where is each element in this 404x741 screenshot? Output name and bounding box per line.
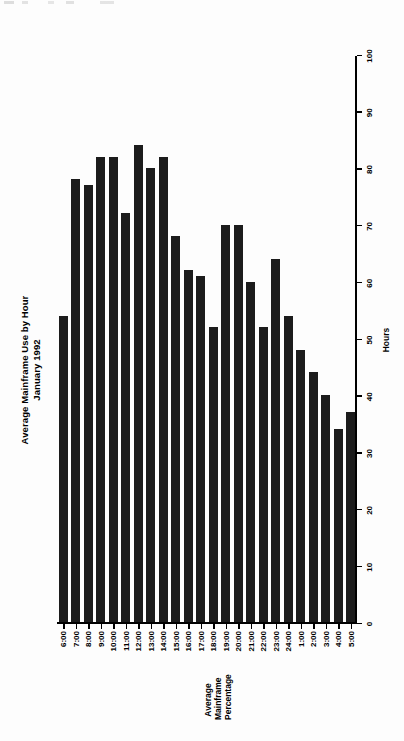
category-tick-label: 18:00 xyxy=(209,631,218,651)
category-tick xyxy=(276,624,277,629)
category-tick-label: 2:00 xyxy=(309,631,318,647)
bar xyxy=(209,327,218,622)
rotated-figure-wrapper: Average Mainframe Use by Hour January 19… xyxy=(13,20,391,720)
chart-title: Average Mainframe Use by Hour January 19… xyxy=(19,20,43,720)
category-tick-label: 24:00 xyxy=(284,631,293,651)
bar xyxy=(121,213,130,622)
category-tick xyxy=(313,624,314,629)
value-tick xyxy=(357,509,362,510)
bar xyxy=(346,412,355,622)
category-tick-label: 20:00 xyxy=(234,631,243,651)
category-tick-label: 7:00 xyxy=(71,631,80,647)
bar-chart-figure: Average Mainframe Use by Hour January 19… xyxy=(13,20,391,720)
value-tick xyxy=(357,111,362,112)
category-tick-label: 23:00 xyxy=(271,631,280,651)
category-tick xyxy=(126,624,127,629)
category-tick-label: 9:00 xyxy=(96,631,105,647)
value-tick-label: 100 xyxy=(365,49,374,62)
category-axis-title: Hours xyxy=(381,56,391,624)
value-tick xyxy=(357,623,362,624)
category-tick xyxy=(176,624,177,629)
category-tick xyxy=(151,624,152,629)
category-tick-label: 22:00 xyxy=(259,631,268,651)
bar xyxy=(71,179,80,622)
bar xyxy=(246,282,255,623)
category-tick xyxy=(338,624,339,629)
category-tick-label: 1:00 xyxy=(296,631,305,647)
bar xyxy=(284,316,293,623)
category-tick xyxy=(101,624,102,629)
category-tick-label: 14:00 xyxy=(159,631,168,651)
category-tick xyxy=(113,624,114,629)
plot-area: 6:007:008:009:0010:0011:0012:0013:0014:0… xyxy=(57,56,357,624)
scan-artifact xyxy=(4,1,144,4)
bar xyxy=(259,327,268,622)
bar xyxy=(234,225,243,623)
category-tick-label: 17:00 xyxy=(196,631,205,651)
value-tick-label: 90 xyxy=(365,108,374,117)
bar xyxy=(84,185,93,622)
value-tick-label: 30 xyxy=(365,449,374,458)
category-tick xyxy=(263,624,264,629)
bar xyxy=(184,270,193,622)
value-axis-title: Average Mainframe Percentage xyxy=(203,680,233,720)
category-tick xyxy=(226,624,227,629)
category-tick-label: 4:00 xyxy=(334,631,343,647)
category-tick xyxy=(163,624,164,629)
bar xyxy=(134,145,143,622)
bar xyxy=(321,395,330,622)
value-tick xyxy=(357,395,362,396)
value-tick-label: 60 xyxy=(365,279,374,288)
category-tick-label: 19:00 xyxy=(221,631,230,651)
category-tick-label: 3:00 xyxy=(321,631,330,647)
category-tick xyxy=(88,624,89,629)
chart-title-line-1: Average Mainframe Use by Hour xyxy=(19,20,31,720)
bar xyxy=(171,236,180,622)
bar xyxy=(109,157,118,623)
category-tick xyxy=(201,624,202,629)
category-tick xyxy=(238,624,239,629)
bar xyxy=(59,316,68,623)
category-tick-label: 15:00 xyxy=(171,631,180,651)
category-tick xyxy=(188,624,189,629)
value-tick-label: 80 xyxy=(365,165,374,174)
bar xyxy=(334,429,343,622)
chart-title-line-2: January 1992 xyxy=(31,20,43,720)
category-tick-label: 12:00 xyxy=(134,631,143,651)
category-tick xyxy=(76,624,77,629)
category-tick-label: 11:00 xyxy=(121,631,130,651)
category-tick xyxy=(288,624,289,629)
value-tick xyxy=(357,225,362,226)
value-tick xyxy=(357,282,362,283)
bar xyxy=(271,259,280,623)
category-tick xyxy=(301,624,302,629)
category-tick-label: 21:00 xyxy=(246,631,255,651)
value-tick xyxy=(357,55,362,56)
category-tick-label: 13:00 xyxy=(146,631,155,651)
category-tick-label: 16:00 xyxy=(184,631,193,651)
value-tick xyxy=(357,168,362,169)
category-tick xyxy=(251,624,252,629)
bar xyxy=(296,350,305,623)
scanned-page: Average Mainframe Use by Hour January 19… xyxy=(0,0,404,741)
category-tick-label: 8:00 xyxy=(84,631,93,647)
value-tick-label: 20 xyxy=(365,506,374,515)
value-tick-label: 50 xyxy=(365,336,374,345)
value-axis-line xyxy=(355,56,357,624)
value-tick xyxy=(357,452,362,453)
bar xyxy=(309,373,318,623)
category-tick xyxy=(351,624,352,629)
value-tick-label: 40 xyxy=(365,392,374,401)
category-tick xyxy=(138,624,139,629)
category-tick xyxy=(326,624,327,629)
category-tick-label: 6:00 xyxy=(59,631,68,647)
value-tick-label: 0 xyxy=(365,622,374,626)
category-tick-label: 10:00 xyxy=(109,631,118,651)
value-tick-label: 10 xyxy=(365,563,374,572)
category-tick xyxy=(213,624,214,629)
value-tick-label: 70 xyxy=(365,222,374,231)
value-tick xyxy=(357,339,362,340)
value-tick xyxy=(357,566,362,567)
bar xyxy=(96,157,105,623)
bar xyxy=(196,276,205,622)
